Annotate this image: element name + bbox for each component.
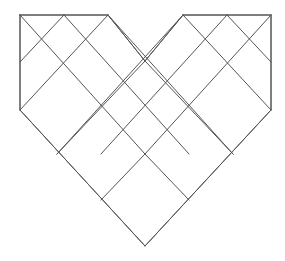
figure-background — [0, 0, 285, 261]
heart-lattice-figure — [0, 0, 285, 261]
